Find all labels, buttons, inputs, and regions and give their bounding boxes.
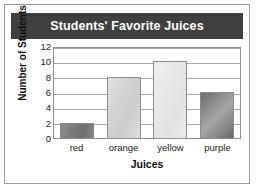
bar-purple bbox=[200, 92, 234, 138]
x-axis-ticks: redorangeyellowpurple bbox=[53, 142, 241, 156]
chart-figure: Students' Favorite Juices Number of Stud… bbox=[4, 4, 250, 184]
plot-area bbox=[53, 47, 241, 139]
y-axis-label: Number of Students bbox=[14, 3, 30, 103]
y-tick-label: 10 bbox=[40, 58, 51, 68]
x-tick-label: red bbox=[56, 142, 98, 153]
bar-red bbox=[60, 123, 94, 138]
y-tick-label: 6 bbox=[46, 88, 51, 98]
x-tick-label: yellow bbox=[150, 142, 192, 153]
y-tick-label: 8 bbox=[46, 73, 51, 83]
x-tick-label: purple bbox=[197, 142, 239, 153]
x-tick-label: orange bbox=[103, 142, 145, 153]
x-axis-label: Juices bbox=[53, 158, 241, 170]
bar-orange bbox=[107, 77, 141, 138]
bar-series bbox=[54, 48, 240, 138]
y-tick-label: 0 bbox=[46, 134, 51, 144]
y-tick-label: 4 bbox=[46, 104, 51, 114]
y-axis-ticks: 121086420 bbox=[31, 47, 51, 139]
bar-yellow bbox=[153, 61, 187, 138]
chart-title-bar: Students' Favorite Juices bbox=[11, 13, 243, 39]
chart-title: Students' Favorite Juices bbox=[50, 19, 203, 33]
y-tick-label: 12 bbox=[40, 42, 51, 52]
y-tick-label: 2 bbox=[46, 119, 51, 129]
